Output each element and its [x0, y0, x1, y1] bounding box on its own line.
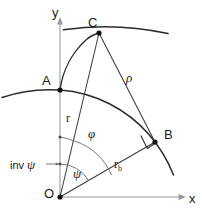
diagram-canvas: [0, 0, 202, 217]
point-label-B: B: [164, 128, 173, 141]
angle-label-psi: ψ: [73, 167, 81, 180]
outer-circle-arc: [64, 27, 169, 34]
angle-label-phi: φ: [88, 127, 95, 140]
point-label-A: A: [42, 74, 51, 87]
segment-label-rb-subscript: b: [118, 164, 122, 173]
point-label-C: C: [88, 16, 97, 29]
x-axis-label: x: [189, 192, 196, 205]
y-axis-label: y: [52, 6, 59, 19]
point-dot-B: [152, 139, 157, 144]
segment-label-r: r: [66, 112, 70, 124]
point-dot-C: [96, 30, 101, 35]
x-axis-arrowhead: [179, 194, 187, 200]
angle-label-inv-psi: invψ: [10, 158, 35, 171]
involute-geometry-figure: y x O A B C r rb ρ φ ψ invψ: [0, 0, 202, 217]
inv-psi-word: inv: [10, 159, 24, 171]
angle-arc-phi-start-dot: [59, 136, 62, 139]
segment-label-rho: ρ: [126, 71, 132, 84]
point-label-O: O: [44, 187, 54, 200]
inv-psi-leader-arrowhead: [56, 162, 60, 165]
point-dot-O: [57, 194, 62, 199]
segment-CB: [99, 33, 155, 142]
segment-label-rb: rb: [114, 158, 122, 173]
angle-arc-phi: [60, 137, 75, 141]
point-dot-A: [57, 87, 62, 92]
inv-psi-symbol: ψ: [27, 157, 35, 172]
involute-curve: [60, 33, 99, 90]
arc-group: [2, 27, 174, 175]
